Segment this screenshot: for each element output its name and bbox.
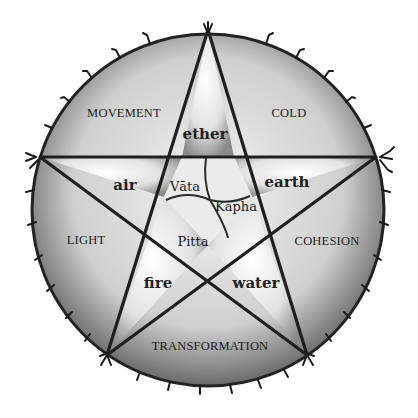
element-air: air — [113, 176, 136, 194]
pentagram-drawing — [0, 0, 418, 418]
dosha-pitta: Pitta — [177, 234, 208, 249]
element-earth: earth — [265, 173, 310, 191]
pentagram-diagram: MOVEMENT COLD LIGHT COHESION TRANSFORMAT… — [0, 0, 418, 418]
quality-cohesion: COHESION — [295, 234, 360, 249]
quality-transformation: TRANSFORMATION — [152, 339, 269, 354]
quality-movement: MOVEMENT — [87, 106, 161, 121]
element-fire: fire — [144, 274, 172, 292]
quality-cold: COLD — [272, 106, 307, 121]
element-ether: ether — [183, 125, 228, 143]
quality-light: LIGHT — [67, 233, 106, 248]
dosha-vata: Vāta — [170, 179, 200, 194]
element-water: water — [232, 274, 279, 292]
dosha-kapha: Kapha — [215, 199, 257, 214]
